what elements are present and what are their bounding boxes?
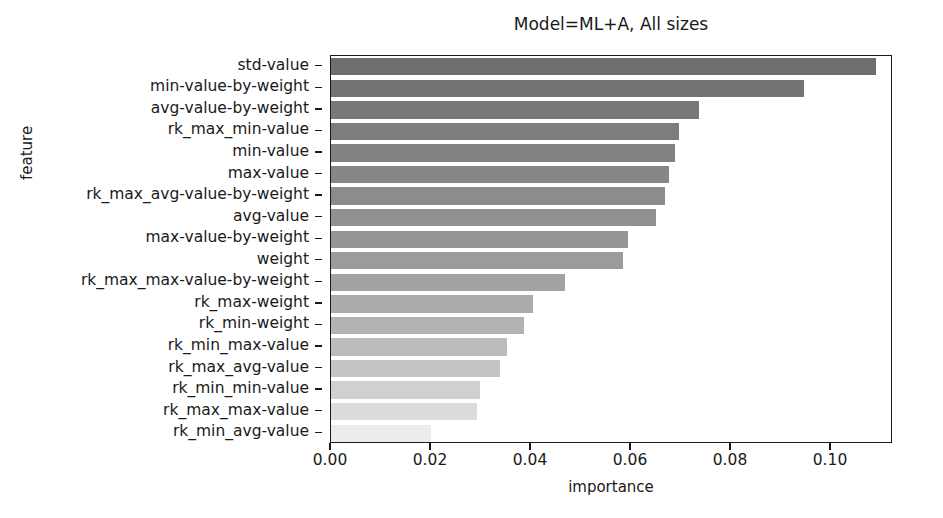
- y-tick-mark: [315, 173, 322, 174]
- bar[interactable]: [331, 295, 533, 312]
- bar[interactable]: [331, 187, 665, 204]
- y-tick-label: rk_max_avg-value: [168, 360, 309, 376]
- y-tick-label: rk_min-weight: [199, 316, 309, 332]
- bar-row: [331, 187, 891, 204]
- bar[interactable]: [331, 123, 679, 140]
- bar-row: [331, 317, 891, 334]
- bar[interactable]: [331, 101, 699, 118]
- x-tick-label: 0.00: [313, 453, 348, 469]
- y-tick-label: rk_min_min-value: [172, 381, 309, 397]
- y-tick-label: min-value-by-weight: [150, 79, 309, 95]
- bar-row: [331, 338, 891, 355]
- y-tick-mark: [315, 65, 322, 66]
- y-tick-label: weight: [257, 252, 309, 268]
- bar[interactable]: [331, 360, 500, 377]
- bar[interactable]: [331, 231, 628, 248]
- figure-canvas: Model=ML+A, All sizes feature std-valuem…: [0, 0, 943, 518]
- bars-layer: [331, 56, 891, 442]
- y-tick-label: rk_min_avg-value: [173, 424, 309, 440]
- bar-row: [331, 381, 891, 398]
- bar[interactable]: [331, 381, 480, 398]
- bar-row: [331, 295, 891, 312]
- y-tick-label: rk_max_min-value: [168, 122, 309, 138]
- x-tick-mark: [829, 443, 830, 450]
- y-tick-mark: [315, 410, 322, 411]
- y-tick-label: min-value: [232, 144, 309, 160]
- bar[interactable]: [331, 403, 477, 420]
- y-tick-label: avg-value-by-weight: [151, 101, 309, 117]
- bar[interactable]: [331, 80, 804, 97]
- bar-row: [331, 360, 891, 377]
- bar-row: [331, 403, 891, 420]
- y-axis-tick-group: std-valuemin-value-by-weightavg-value-by…: [0, 55, 322, 443]
- bar-row: [331, 252, 891, 269]
- x-tick-label: 0.06: [613, 453, 648, 469]
- y-tick-label: max-value: [228, 166, 309, 182]
- x-axis-label: importance: [330, 478, 892, 496]
- bar-row: [331, 144, 891, 161]
- bar-row: [331, 101, 891, 118]
- y-tick-label: rk_min_max-value: [168, 338, 309, 354]
- bar-row: [331, 58, 891, 75]
- y-tick-mark: [315, 238, 322, 239]
- x-tick-mark: [329, 443, 330, 450]
- y-tick-mark: [315, 108, 322, 109]
- y-tick-mark: [315, 130, 322, 131]
- bar[interactable]: [331, 58, 876, 75]
- x-axis-tick-group: 0.000.020.040.060.080.10: [330, 443, 892, 483]
- chart-title: Model=ML+A, All sizes: [330, 14, 892, 34]
- y-tick-mark: [315, 151, 322, 152]
- y-tick-mark: [315, 194, 322, 195]
- x-tick-label: 0.08: [713, 453, 748, 469]
- y-tick-mark: [315, 367, 322, 368]
- bar-row: [331, 80, 891, 97]
- y-tick-label: std-value: [237, 58, 309, 74]
- y-tick-label: rk_max_avg-value-by-weight: [86, 187, 309, 203]
- bar[interactable]: [331, 144, 675, 161]
- bar[interactable]: [331, 166, 669, 183]
- y-tick-mark: [315, 216, 322, 217]
- y-tick-label: rk_max_max-value: [163, 403, 309, 419]
- x-tick-mark: [429, 443, 430, 450]
- bar[interactable]: [331, 317, 524, 334]
- y-tick-mark: [315, 345, 322, 346]
- y-tick-mark: [315, 281, 322, 282]
- y-tick-mark: [315, 324, 322, 325]
- y-tick-label: rk_max-weight: [194, 295, 309, 311]
- bar-row: [331, 209, 891, 226]
- y-tick-mark: [315, 87, 322, 88]
- bar-row: [331, 166, 891, 183]
- y-tick-mark: [315, 388, 322, 389]
- bar[interactable]: [331, 252, 623, 269]
- x-tick-label: 0.02: [413, 453, 448, 469]
- x-tick-label: 0.04: [513, 453, 548, 469]
- bar[interactable]: [331, 425, 431, 442]
- y-tick-mark: [315, 302, 322, 303]
- y-tick-mark: [315, 432, 322, 433]
- bar[interactable]: [331, 338, 507, 355]
- y-tick-label: max-value-by-weight: [146, 230, 309, 246]
- y-tick-label: rk_max_max-value-by-weight: [81, 273, 309, 289]
- plot-area: [330, 55, 892, 443]
- y-tick-label: avg-value: [233, 209, 309, 225]
- bar-row: [331, 123, 891, 140]
- x-tick-mark: [729, 443, 730, 450]
- bar-row: [331, 231, 891, 248]
- bar[interactable]: [331, 274, 565, 291]
- x-tick-mark: [629, 443, 630, 450]
- bar-row: [331, 274, 891, 291]
- bar-row: [331, 425, 891, 442]
- bar[interactable]: [331, 209, 656, 226]
- y-tick-mark: [315, 259, 322, 260]
- x-tick-mark: [529, 443, 530, 450]
- x-tick-label: 0.10: [813, 453, 848, 469]
